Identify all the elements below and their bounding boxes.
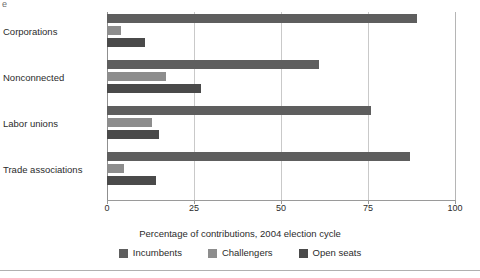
x-tick-label: 50: [276, 203, 286, 214]
bar: [107, 38, 145, 47]
legend-swatch-icon: [208, 249, 217, 258]
legend-label: Challengers: [222, 248, 273, 258]
bar: [107, 14, 417, 23]
legend-label: Incumbents: [133, 248, 182, 258]
category-label: Corporations: [3, 26, 101, 37]
x-tick-label: 75: [363, 203, 373, 214]
bar: [107, 106, 371, 115]
bar-group: [107, 106, 455, 140]
bar: [107, 130, 159, 139]
chart-legend: IncumbentsChallengersOpen seats: [0, 248, 480, 258]
category-label: Trade associations: [3, 164, 101, 175]
x-axis-title: Percentage of contributions, 2004 electi…: [0, 228, 480, 239]
plot-area: [107, 12, 455, 200]
legend-item: Open seats: [299, 248, 362, 258]
page-divider-rule: [0, 270, 480, 271]
legend-swatch-icon: [299, 249, 308, 258]
x-tick-label: 100: [447, 203, 462, 214]
bar: [107, 152, 410, 161]
bar-group: [107, 152, 455, 186]
category-label: Labor unions: [3, 118, 101, 129]
bar: [107, 72, 166, 81]
bar: [107, 176, 156, 185]
bar: [107, 118, 152, 127]
bar: [107, 84, 201, 93]
legend-label: Open seats: [313, 248, 362, 258]
bar-group: [107, 60, 455, 94]
x-tick-label: 0: [104, 203, 109, 214]
bar: [107, 164, 124, 173]
gridline-100: [455, 12, 456, 200]
bar-chart-figure: e CorporationsNonconnectedLabor unionsTr…: [0, 0, 480, 278]
category-label: Nonconnected: [3, 72, 101, 83]
x-tick-label: 25: [189, 203, 199, 214]
legend-item: Challengers: [208, 248, 273, 258]
scan-artifact-glyph: e: [2, 0, 7, 9]
legend-swatch-icon: [119, 249, 128, 258]
bar: [107, 60, 319, 69]
legend-item: Incumbents: [119, 248, 182, 258]
bar-group: [107, 14, 455, 48]
bar: [107, 26, 121, 35]
